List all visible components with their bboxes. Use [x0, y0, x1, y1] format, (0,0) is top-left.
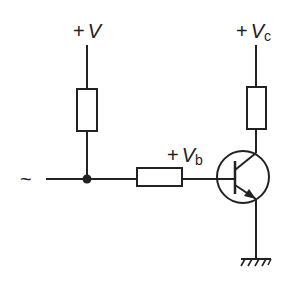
- junction-dot: [83, 175, 92, 184]
- resistor-r3: [137, 168, 182, 186]
- resistor-r1: [77, 89, 97, 131]
- ac-source-icon: ~: [20, 168, 32, 190]
- label-plus-vb: +Vb: [167, 144, 203, 168]
- transistor-body: [217, 151, 269, 203]
- label-plus-vc: +Vc: [236, 20, 271, 44]
- label-plus-v: +V: [73, 20, 103, 42]
- emitter-arrow-icon: [244, 189, 256, 199]
- circuit-diagram: +V +Vc +Vb ~: [0, 0, 298, 289]
- resistor-r2: [247, 87, 266, 129]
- transistor-collector-lead: [235, 153, 256, 170]
- ground-hatch: [241, 259, 271, 266]
